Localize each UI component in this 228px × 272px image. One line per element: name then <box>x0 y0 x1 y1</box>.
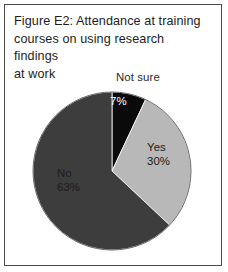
pie-label-not-sure: Not sure <box>116 70 160 84</box>
pie-label-yes-name: Yes <box>147 140 170 154</box>
pie-label-not-sure-name: Not sure <box>116 71 160 83</box>
pie-label-no-percent: 63% <box>57 180 80 194</box>
pie-label-yes-percent: 30% <box>147 154 170 168</box>
pie-chart-svg <box>0 0 228 272</box>
pie-label-no: No 63% <box>57 166 80 194</box>
pie-label-yes: Yes 30% <box>147 140 170 168</box>
pie-label-not-sure-value: 7% <box>110 94 127 108</box>
pie-label-no-name: No <box>57 166 80 180</box>
figure-container: Figure E2: Attendance at training course… <box>0 0 228 272</box>
pie-chart: Not sure 7% Yes 30% No 63% <box>0 0 228 272</box>
pie-label-not-sure-percent: 7% <box>110 95 127 107</box>
